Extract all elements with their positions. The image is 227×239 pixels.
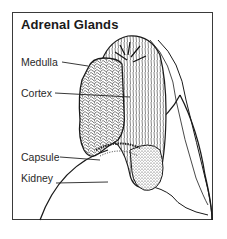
adrenal-gland-illustration [0,0,227,239]
leader-capsule [60,157,100,160]
leader-kidney [56,182,108,183]
leader-medulla [62,62,88,66]
